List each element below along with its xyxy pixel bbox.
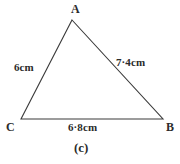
figure-caption: (c) bbox=[74, 141, 88, 154]
side-length-label-ca: 6cm bbox=[14, 62, 34, 73]
side-length-label-cb: 6·8cm bbox=[68, 122, 97, 133]
vertex-label-c: C bbox=[6, 121, 15, 133]
triangle-figure: A B C 6cm 7·4cm 6·8cm (c) bbox=[0, 0, 180, 164]
triangle-drawing bbox=[0, 0, 180, 164]
side-length-label-ab: 7·4cm bbox=[116, 57, 145, 68]
vertex-label-a: A bbox=[71, 3, 80, 15]
triangle-outline bbox=[21, 20, 163, 119]
vertex-label-b: B bbox=[166, 121, 174, 133]
